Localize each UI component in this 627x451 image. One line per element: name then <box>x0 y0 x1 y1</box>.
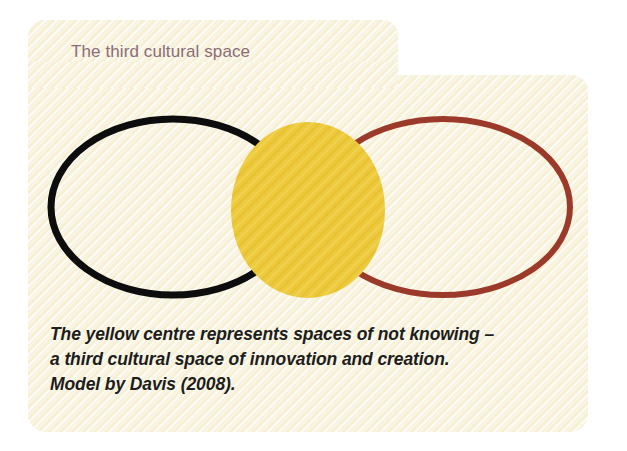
venn-diagram-svg <box>28 95 588 310</box>
caption-line-3: Model by Davis (2008). <box>50 372 570 397</box>
card-seam-bridge <box>28 62 398 88</box>
page-title: The third cultural space <box>71 41 250 63</box>
venn-diagram <box>28 95 588 310</box>
caption-line-1: The yellow centre represents spaces of n… <box>50 322 570 347</box>
figure-caption: The yellow centre represents spaces of n… <box>50 322 570 397</box>
figure-canvas: The third cultural space The yellow cent… <box>0 0 627 451</box>
third-space-yellow-centre <box>231 122 385 298</box>
caption-line-2: a third cultural space of innovation and… <box>50 347 570 372</box>
